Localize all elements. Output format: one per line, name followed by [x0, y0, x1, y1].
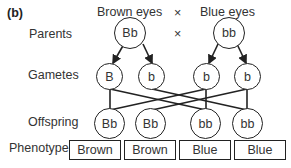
panel-label: (b) [7, 6, 23, 20]
offspring-circle-2: Bb [135, 108, 166, 139]
gamete-circle-2: b [138, 63, 165, 90]
row-label-parents: Parents [29, 27, 72, 41]
row-label-offspring: Offspring [28, 115, 79, 129]
phenotype-box-2: Brown [124, 140, 176, 160]
phenotype-box-3: Blue [179, 140, 231, 160]
offspring-circle-1: Bb [94, 108, 125, 139]
parents-cross: × [174, 27, 181, 41]
arrow-parent2-gamete4 [237, 44, 246, 63]
gamete-circle-4: b [234, 63, 261, 90]
offspring-circle-3: bb [190, 108, 221, 139]
row-label-phenotype: Phenotype [9, 141, 69, 155]
arrow-parent2-gamete3 [209, 44, 218, 63]
arrow-parent1-gamete2 [143, 44, 152, 63]
parent-circle-2: bb [213, 17, 245, 49]
gamete-circle-1: B [96, 63, 123, 90]
offspring-circle-4: bb [232, 108, 263, 139]
header-cross: × [174, 6, 181, 20]
phenotype-box-1: Brown [69, 140, 121, 160]
row-label-gametes: Gametes [28, 68, 79, 82]
phenotype-box-4: Blue [234, 140, 286, 160]
parent-circle-1: Bb [114, 17, 146, 49]
gamete-circle-3: b [193, 63, 220, 90]
